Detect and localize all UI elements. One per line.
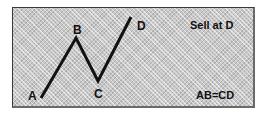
point-label-d: D [137,20,146,32]
point-label-c: C [94,88,103,100]
abcd-zigzag-line [41,17,131,98]
equality-annotation: AB=CD [196,90,234,101]
point-label-b: B [73,24,82,36]
point-label-a: A [28,90,37,102]
sell-annotation: Sell at D [190,20,233,31]
